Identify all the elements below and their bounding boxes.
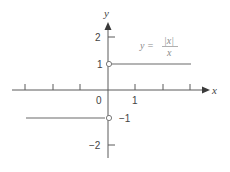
equation-numerator: |x| xyxy=(164,35,174,46)
y-axis-label: y xyxy=(103,7,109,19)
y-tick-label-neg1: −1 xyxy=(119,113,131,124)
x-axis-label: x xyxy=(211,84,217,96)
y-axis-arrow-icon xyxy=(105,22,112,30)
y-ticks xyxy=(108,37,115,145)
equation-denominator: x xyxy=(166,47,172,58)
x-axis-arrow-icon xyxy=(202,87,210,94)
x-tick-label-1: 1 xyxy=(132,95,138,106)
y-tick-label-2: 2 xyxy=(95,32,101,43)
y-tick-label-neg2: −2 xyxy=(89,140,101,151)
origin-label: 0 xyxy=(96,95,102,106)
equation-annotation: y = |x| x xyxy=(139,35,178,58)
y-tick-label-1: 1 xyxy=(97,59,103,70)
open-point-lower xyxy=(106,115,111,120)
step-function-graph: y x 0 1 2 1 −1 −2 y = |x| x xyxy=(0,0,230,172)
open-point-upper xyxy=(106,61,111,66)
equation-lhs: y = xyxy=(139,40,154,51)
